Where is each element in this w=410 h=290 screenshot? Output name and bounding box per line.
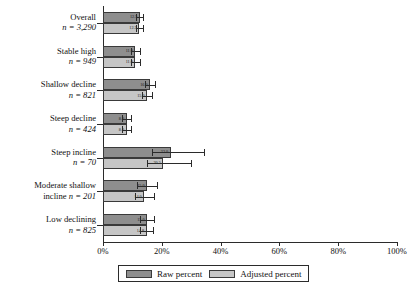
error-bar-cap-low — [142, 92, 143, 99]
bar-adjusted-percent: 15.0 — [103, 90, 147, 101]
bar-group: 16.015.0 — [103, 79, 397, 101]
bar-row: 11.0 — [103, 46, 397, 57]
error-bar-line — [145, 85, 156, 86]
category-label-n: n = 949 — [0, 56, 96, 67]
error-bar-cap-low — [140, 216, 141, 223]
bar-row: 14.8 — [103, 225, 397, 236]
category-label-line: Overall — [0, 12, 96, 23]
plot-area: 12.512.311.011.016.015.08.08.023.020.515… — [103, 6, 397, 242]
bar-group: 11.011.0 — [103, 46, 397, 68]
bar-row: 12.3 — [103, 23, 397, 34]
bar-raw-percent: 12.5 — [103, 12, 140, 23]
category-label-line: Steep decline — [0, 113, 96, 124]
error-bar-cap-high — [154, 193, 155, 200]
error-bar-cap-high — [131, 126, 132, 133]
error-bar-cap-high — [143, 25, 144, 32]
error-bar-line — [136, 17, 143, 18]
error-bar-cap-low — [135, 193, 136, 200]
error-bar-cap-high — [204, 149, 205, 156]
error-bar-cap-high — [131, 115, 132, 122]
bar-group: 23.020.5 — [103, 147, 397, 169]
error-bar-cap-low — [131, 59, 132, 66]
bar-group: 15.014.8 — [103, 214, 397, 236]
bar-row: 14.0 — [103, 191, 397, 202]
bar-raw-percent: 16.0 — [103, 79, 150, 90]
error-bar-line — [122, 130, 131, 131]
bar-group: 15.014.0 — [103, 180, 397, 202]
error-bar-cap-low — [122, 126, 123, 133]
bar-row: 15.0 — [103, 180, 397, 191]
chart-page: Overalln = 3,290Stable highn = 949Shallo… — [0, 0, 410, 290]
category-label: Shallow declinen = 821 — [0, 79, 96, 100]
legend-label: Adjusted percent — [240, 269, 301, 279]
error-bar-cap-low — [145, 81, 146, 88]
x-axis-tick-label: 0% — [97, 246, 108, 256]
category-label-line: Shallow decline — [0, 79, 96, 90]
x-axis-tick-label: 100% — [387, 246, 407, 256]
error-bar-cap-high — [157, 182, 158, 189]
error-bar-cap-high — [140, 59, 141, 66]
bar-row: 16.0 — [103, 79, 397, 90]
bar-row: 8.0 — [103, 124, 397, 135]
bar-row: 8.0 — [103, 113, 397, 124]
error-bar-line — [131, 62, 140, 63]
legend-swatch-raw — [126, 270, 152, 278]
error-bar-line — [137, 186, 158, 187]
bar-row: 12.5 — [103, 12, 397, 23]
legend-item: Raw percent — [126, 269, 202, 279]
error-bar-cap-high — [155, 81, 156, 88]
error-bar-line — [140, 220, 154, 221]
bar-adjusted-percent: 12.3 — [103, 23, 139, 34]
error-bar-line — [131, 51, 140, 52]
error-bar-cap-low — [152, 149, 153, 156]
error-bar-cap-high — [191, 160, 192, 167]
error-bar-line — [142, 96, 153, 97]
error-bar-line — [152, 152, 205, 153]
bar-row: 23.0 — [103, 147, 397, 158]
category-label: Steep declinen = 424 — [0, 113, 96, 134]
category-label-n: n = 70 — [0, 157, 96, 168]
category-label-n: n = 3,290 — [0, 22, 96, 33]
category-label: Moderate shallowincline n = 201 — [0, 180, 96, 201]
error-bar-cap-low — [131, 48, 132, 55]
category-label-line: Moderate shallow — [0, 180, 96, 191]
error-bar-cap-low — [137, 182, 138, 189]
category-label-n: incline n = 201 — [0, 191, 96, 202]
category-label-line: Low declining — [0, 214, 96, 225]
x-axis-tick-label: 40% — [213, 246, 229, 256]
error-bar-cap-high — [153, 227, 154, 234]
category-label: Stable highn = 949 — [0, 46, 96, 67]
error-bar-line — [147, 163, 191, 164]
bar-row: 15.0 — [103, 214, 397, 225]
error-bar-cap-high — [140, 48, 141, 55]
error-bar-cap-low — [136, 25, 137, 32]
bar-group: 12.512.3 — [103, 12, 397, 34]
bar-row: 20.5 — [103, 158, 397, 169]
bar-group: 8.08.0 — [103, 113, 397, 135]
x-axis-line — [103, 242, 397, 243]
error-bar-line — [140, 231, 153, 232]
legend-label: Raw percent — [157, 269, 202, 279]
category-label: Overalln = 3,290 — [0, 12, 96, 33]
error-bar-cap-high — [152, 92, 153, 99]
error-bar-cap-high — [143, 14, 144, 21]
category-label-n: n = 424 — [0, 124, 96, 135]
category-label-line: Steep incline — [0, 147, 96, 158]
legend-item: Adjusted percent — [209, 269, 301, 279]
error-bar-cap-high — [154, 216, 155, 223]
category-label: Low decliningn = 825 — [0, 214, 96, 235]
x-axis-tick-label: 80% — [330, 246, 346, 256]
error-bar-cap-low — [136, 14, 137, 21]
x-axis-tick-label: 60% — [272, 246, 288, 256]
category-label-n: n = 825 — [0, 225, 96, 236]
legend-swatch-adjusted — [209, 270, 235, 278]
error-bar-cap-low — [140, 227, 141, 234]
error-bar-cap-low — [147, 160, 148, 167]
category-label-line: Stable high — [0, 46, 96, 57]
bar-row: 15.0 — [103, 90, 397, 101]
x-axis-tick-label: 20% — [154, 246, 170, 256]
error-bar-cap-low — [122, 115, 123, 122]
bar-row: 11.0 — [103, 57, 397, 68]
error-bar-line — [135, 197, 154, 198]
category-label-n: n = 821 — [0, 90, 96, 101]
